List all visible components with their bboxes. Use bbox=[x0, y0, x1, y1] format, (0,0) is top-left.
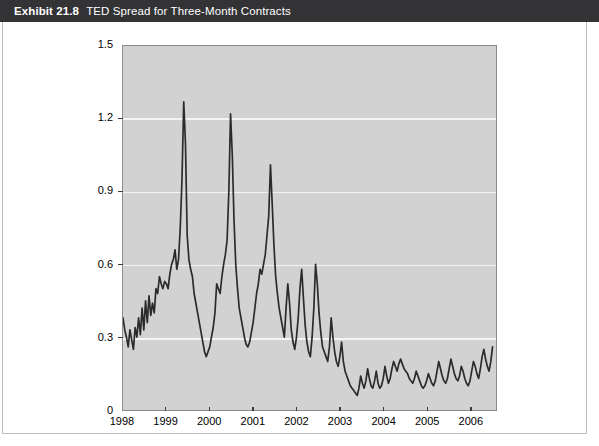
x-tick-mark-2004 bbox=[383, 407, 384, 411]
chart-figure: 00.30.60.91.21.5 19981999200020012002200… bbox=[0, 22, 599, 434]
x-tick-mark-2000 bbox=[209, 407, 210, 411]
source-note bbox=[4, 438, 564, 446]
exhibit-title: TED Spread for Three-Month Contracts bbox=[86, 5, 291, 17]
exhibit-number: Exhibit 21.8 bbox=[14, 5, 79, 17]
y-tick-label-5: 1.5 bbox=[81, 39, 113, 50]
ted-spread-line-series bbox=[123, 46, 496, 410]
x-tick-label-2001: 2001 bbox=[233, 416, 273, 427]
plot-area bbox=[122, 45, 497, 411]
x-tick-mark-2003 bbox=[339, 407, 340, 411]
y-tick-mark-4 bbox=[118, 118, 123, 119]
y-tick-mark-2 bbox=[118, 264, 123, 265]
y-tick-mark-1 bbox=[118, 337, 123, 338]
y-tick-label-0: 0 bbox=[81, 405, 113, 416]
y-tick-label-2: 0.6 bbox=[81, 259, 113, 270]
exhibit-header-bar: Exhibit 21.8 TED Spread for Three-Month … bbox=[0, 0, 599, 22]
exhibit-page: Exhibit 21.8 TED Spread for Three-Month … bbox=[0, 0, 599, 446]
y-tick-label-4: 1.2 bbox=[81, 112, 113, 123]
x-tick-label-2005: 2005 bbox=[407, 416, 447, 427]
x-tick-label-2002: 2002 bbox=[276, 416, 316, 427]
x-tick-label-1998: 1998 bbox=[102, 416, 142, 427]
y-tick-label-3: 0.9 bbox=[81, 185, 113, 196]
y-tick-mark-3 bbox=[118, 191, 123, 192]
x-tick-label-2006: 2006 bbox=[451, 416, 491, 427]
x-tick-mark-2005 bbox=[427, 407, 428, 411]
x-tick-label-2000: 2000 bbox=[189, 416, 229, 427]
x-tick-mark-2006 bbox=[470, 407, 471, 411]
x-tick-label-1999: 1999 bbox=[146, 416, 186, 427]
x-tick-label-2003: 2003 bbox=[320, 416, 360, 427]
x-tick-mark-2001 bbox=[252, 407, 253, 411]
x-tick-mark-1999 bbox=[165, 407, 166, 411]
y-tick-label-1: 0.3 bbox=[81, 332, 113, 343]
series-polyline bbox=[123, 102, 493, 396]
x-tick-label-2004: 2004 bbox=[364, 416, 404, 427]
x-tick-mark-2002 bbox=[296, 407, 297, 411]
